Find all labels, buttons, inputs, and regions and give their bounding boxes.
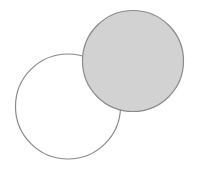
figure-canvas (0, 0, 198, 173)
circles-diagram-svg (0, 0, 198, 173)
filled-circle (83, 11, 184, 112)
